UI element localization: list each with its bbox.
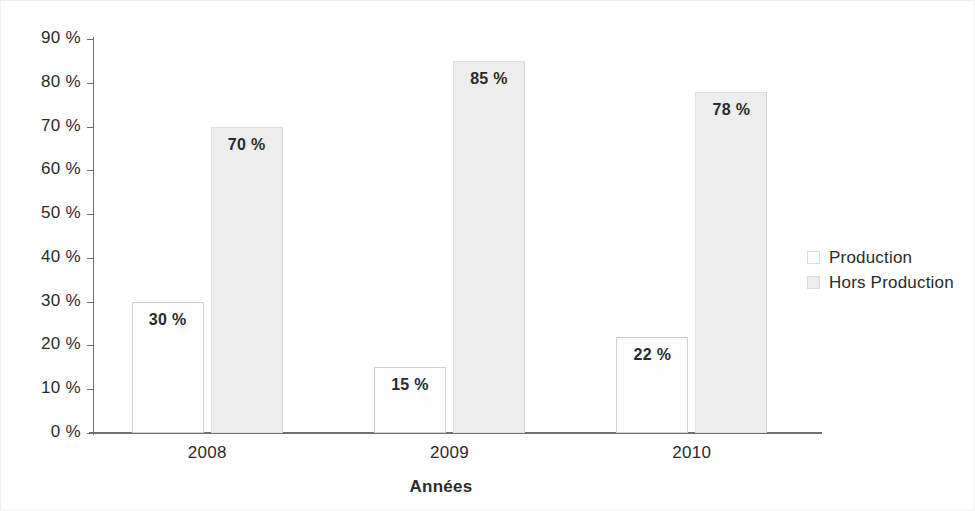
legend-item[interactable]: Production [807, 245, 954, 270]
bar-production[interactable]: 22 % [616, 337, 688, 433]
bar-group: 15 %85 % [374, 39, 525, 433]
x-axis-title: Années [1, 477, 881, 497]
y-axis-tick-mark [87, 39, 94, 40]
y-axis-tick-mark [87, 345, 94, 346]
bar-value-label: 85 % [454, 70, 524, 88]
legend-label: Hors Production [829, 273, 954, 293]
y-axis-tick-mark [87, 170, 94, 171]
x-axis-tick-label: 2009 [374, 443, 525, 463]
bar-group: 30 %70 % [132, 39, 283, 433]
y-axis-tick-label: 20 % [41, 334, 81, 354]
x-axis-tick-label: 2008 [132, 443, 283, 463]
y-axis-tick-mark [87, 127, 94, 128]
legend-swatch-icon [807, 276, 820, 289]
bar-production[interactable]: 30 % [132, 302, 204, 433]
y-axis-tick-mark [87, 389, 94, 390]
y-axis-tick-label: 50 % [41, 203, 81, 223]
bar-hors-production[interactable]: 78 % [695, 92, 767, 433]
bar-value-label: 70 % [212, 136, 282, 154]
y-axis-tick-label: 10 % [41, 378, 81, 398]
legend-swatch-icon [807, 251, 820, 264]
bar-value-label: 22 % [617, 346, 687, 364]
plot-area: 30 %70 %15 %85 %22 %78 % [94, 39, 821, 433]
y-axis-tick-label: 30 % [41, 291, 81, 311]
y-axis-tick-mark [87, 258, 94, 259]
legend-label: Production [829, 248, 912, 268]
y-axis-tick-label: 70 % [41, 116, 81, 136]
chart-legend: ProductionHors Production [807, 245, 954, 295]
y-axis-ticks: 90 %80 %70 %60 %50 %40 %30 %20 %10 %0 % [1, 1, 94, 511]
y-axis-tick-mark [87, 214, 94, 215]
y-axis-tick-label: 90 % [41, 28, 81, 48]
y-axis-tick-mark [87, 302, 94, 303]
bar-value-label: 78 % [696, 101, 766, 119]
bar-hors-production[interactable]: 70 % [211, 127, 283, 433]
y-axis-tick-label: 40 % [41, 247, 81, 267]
bar-production[interactable]: 15 % [374, 367, 446, 433]
bar-value-label: 30 % [133, 311, 203, 329]
bar-value-label: 15 % [375, 376, 445, 394]
y-axis-tick-mark [87, 83, 94, 84]
x-axis-tick-label: 2010 [616, 443, 767, 463]
y-axis-tick-label: 60 % [41, 159, 81, 179]
legend-item[interactable]: Hors Production [807, 270, 954, 295]
y-axis-tick-mark [87, 433, 94, 434]
y-axis-tick-label: 80 % [41, 72, 81, 92]
y-axis-tick-label: 0 % [51, 422, 81, 442]
bar-group: 22 %78 % [616, 39, 767, 433]
bar-chart-figure: 90 %80 %70 %60 %50 %40 %30 %20 %10 %0 % … [0, 0, 975, 511]
bar-hors-production[interactable]: 85 % [453, 61, 525, 433]
